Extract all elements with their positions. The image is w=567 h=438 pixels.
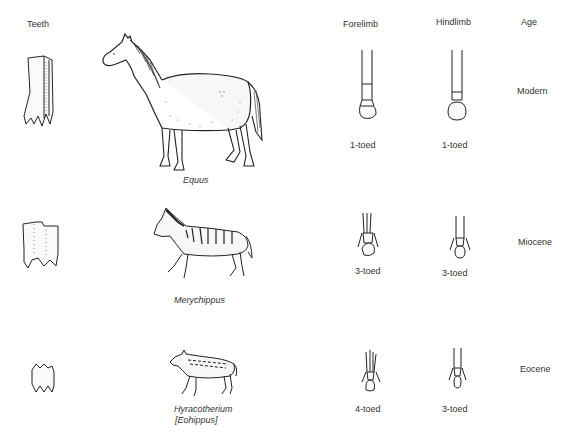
genus-label-merychippus: Merychippus [174,295,225,305]
equus-hindlimb-drawing [444,48,470,124]
merychippus-forelimb-drawing [356,211,382,261]
genus-label-equus: Equus [183,175,209,185]
header-teeth: Teeth [27,19,49,29]
hindlimb-label-row2: 3-toed [442,268,468,278]
equus-horse-drawing [100,32,270,168]
age-label-row3: Eocene [520,364,551,374]
age-label-row1: Modern [517,86,548,96]
hyracotherium-horse-drawing [168,350,242,400]
merychippus-tooth-drawing [20,220,60,272]
merychippus-hindlimb-drawing [448,214,474,264]
merychippus-horse-drawing [152,206,256,282]
hyracotherium-hindlimb-drawing [446,346,470,390]
hindlimb-label-row3: 3-toed [442,404,468,414]
header-hindlimb: Hindlimb [436,17,471,27]
age-label-row2: Miocene [518,237,552,247]
hyracotherium-tooth-drawing [28,362,58,396]
forelimb-label-row1: 1-toed [350,140,376,150]
genus-label-hyracotherium: Hyracotherium [174,404,233,414]
hindlimb-label-row1: 1-toed [442,140,468,150]
equus-tooth-drawing [16,52,58,132]
forelimb-label-row2: 3-toed [355,266,381,276]
equus-forelimb-drawing [354,48,380,124]
genus-alt-label-eohippus: [Eohippus] [175,415,218,425]
header-age: Age [521,17,537,27]
hyracotherium-forelimb-drawing [360,350,382,394]
forelimb-label-row3: 4-toed [355,404,381,414]
header-forelimb: Forelimb [343,19,378,29]
